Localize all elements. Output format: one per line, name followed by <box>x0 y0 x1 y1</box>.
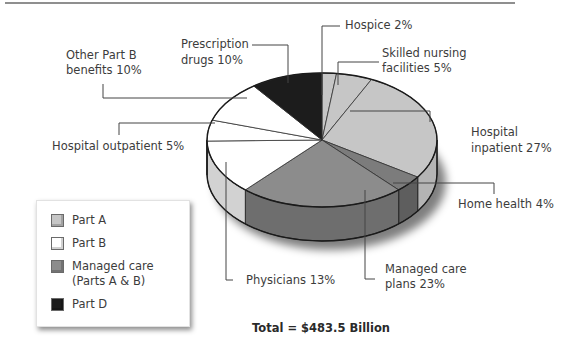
label-rx-line1: Prescription <box>181 37 249 51</box>
legend: Part A Part B Managed care (Parts A & B)… <box>36 200 190 327</box>
swatch-part-b <box>51 237 64 250</box>
total-label: Total = $483.5 Billion <box>252 321 390 335</box>
label-inpatient-line1: Hospital <box>471 125 518 139</box>
legend-label: (Parts A & B) <box>72 274 145 288</box>
label-hospice: Hospice 2% <box>345 18 412 32</box>
label-physicians: Physicians 13% <box>246 273 335 287</box>
label-home-health: Home health 4% <box>458 197 554 211</box>
swatch-managed-care <box>51 260 64 273</box>
chart: Hospice 2% Skilled nursing facilities 5%… <box>0 0 584 364</box>
leader-outpatient <box>119 123 215 135</box>
label-snf-line2: facilities 5% <box>382 61 452 75</box>
label-other-b-line2: benefits 10% <box>66 63 142 77</box>
label-outpatient: Hospital outpatient 5% <box>52 139 184 153</box>
legend-label: Managed care <box>72 259 154 273</box>
legend-label: Part D <box>72 297 107 311</box>
label-snf-line1: Skilled nursing <box>382 46 467 60</box>
label-managed-line2: plans 23% <box>385 277 445 291</box>
swatch-part-d <box>51 298 64 311</box>
legend-label: Part A <box>72 213 106 227</box>
label-other-b-line1: Other Part B <box>66 48 137 62</box>
leader-other-b <box>103 84 247 98</box>
label-rx-line2: drugs 10% <box>181 53 243 67</box>
swatch-part-a <box>51 214 64 227</box>
legend-label: Part B <box>72 236 106 250</box>
label-inpatient-line2: inpatient 27% <box>471 141 552 155</box>
label-managed-line1: Managed care <box>385 262 467 276</box>
